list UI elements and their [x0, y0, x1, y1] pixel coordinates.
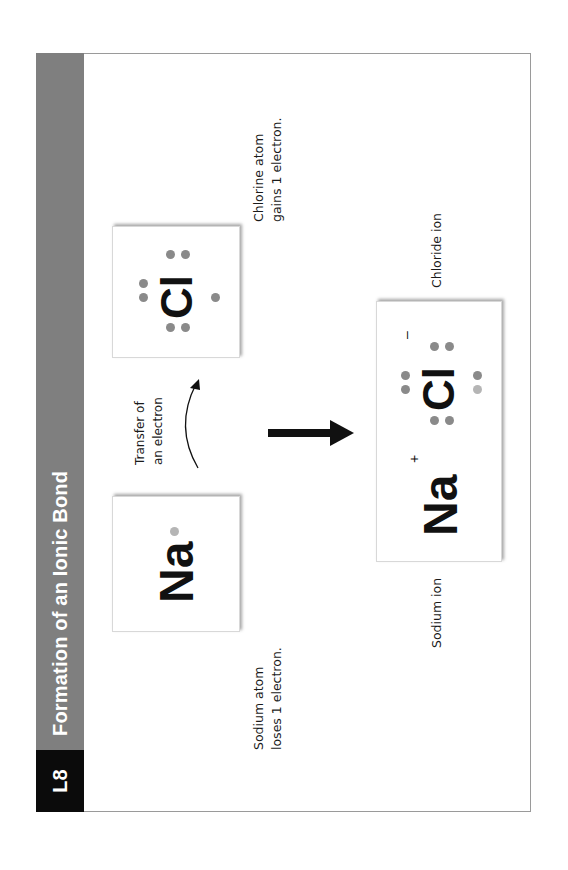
chlorine-electron: [166, 323, 175, 332]
chloride-electron: [445, 342, 454, 351]
sodium-valence-electron: [170, 527, 179, 536]
chlorine-electron: [181, 250, 190, 259]
chlorine-symbol: Cl: [155, 275, 199, 319]
chloride-electron: [401, 371, 410, 380]
sodium-ion-caption: Sodium ion: [428, 578, 446, 648]
right-arrow-icon: [268, 420, 356, 446]
chloride-electron: [445, 416, 454, 425]
textbook-page: L8 Formation of an Ionic Bond Na Transfe…: [0, 0, 568, 870]
transfer-label: Transfer of an electron: [131, 397, 167, 465]
sodium-symbol: Na: [153, 542, 201, 603]
chlorine-electron: [139, 279, 148, 288]
chloride-electron: [430, 342, 439, 351]
chlorine-atom-caption: Chlorine atom gains 1 electron.: [250, 118, 286, 222]
chloride-ion-caption: Chloride ion: [428, 213, 446, 288]
chloride-ion-charge: –: [399, 331, 413, 339]
chloride-electron: [401, 385, 410, 394]
page-title: Formation of an Ionic Bond: [36, 471, 84, 736]
chloride-electron: [430, 416, 439, 425]
chloride-ion-symbol: Cl: [417, 367, 461, 411]
sodium-atom-caption: Sodium atom loses 1 electron.: [250, 647, 286, 750]
lesson-badge: L8: [36, 750, 84, 812]
lesson-code: L8: [49, 769, 72, 792]
chlorine-atom-box: Cl: [112, 226, 240, 358]
sodium-atom-box: Na: [112, 496, 240, 632]
chlorine-electron: [166, 250, 175, 259]
chlorine-electron: [211, 293, 220, 302]
transferred-electron: [473, 385, 482, 394]
chloride-electron: [473, 371, 482, 380]
chlorine-electron: [181, 323, 190, 332]
chlorine-electron: [139, 293, 148, 302]
curved-arrow-icon: [178, 372, 208, 472]
sodium-ion-charge: +: [407, 455, 421, 463]
sodium-ion-symbol: Na: [417, 475, 465, 536]
sodium-chloride-product-box: Na + Cl –: [376, 301, 502, 562]
